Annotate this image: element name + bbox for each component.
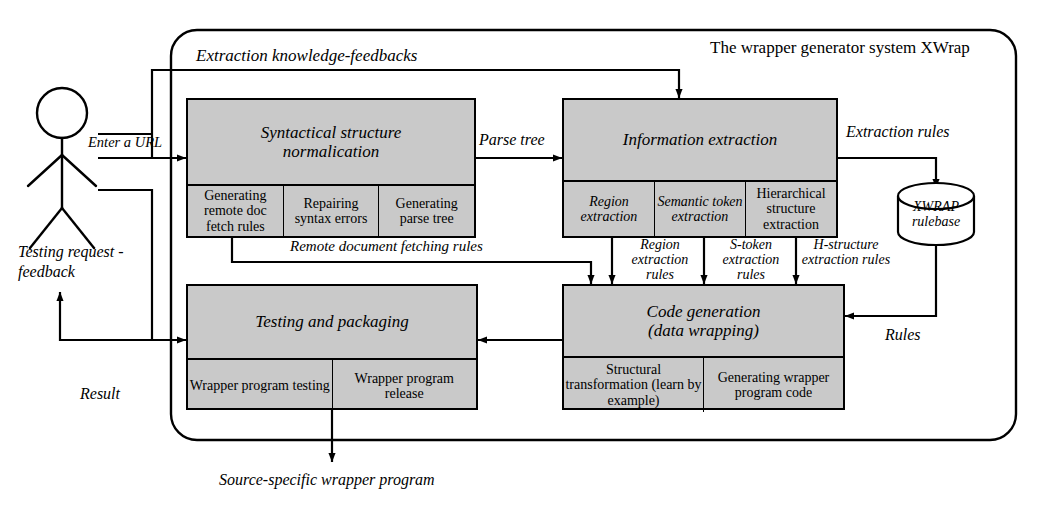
sub-generating-remote-doc-fetch-rules[interactable]: Generating remote doc fetch rules xyxy=(188,186,283,236)
label-enter-a-url: Enter a URL xyxy=(88,135,162,150)
sub-generating-parse-tree[interactable]: Generating parse tree xyxy=(378,186,474,236)
box-syntactical-subrow: Generating remote doc fetch rules Repair… xyxy=(188,184,474,236)
box-information-extraction[interactable]: Information extraction Region extraction… xyxy=(562,98,838,238)
box-code-generation[interactable]: Code generation (data wrapping) Structur… xyxy=(562,284,845,410)
label-result: Result xyxy=(80,386,120,403)
label-s-token-extraction-rules: S-token extraction rules xyxy=(710,238,792,282)
xwrap-rulebase-line1: XWRAP xyxy=(896,199,976,214)
xwrap-rulebase-label: XWRAP rulebase xyxy=(896,199,976,230)
box-syntactical-structure-normalization[interactable]: Syntactical structure normalication Gene… xyxy=(186,98,476,238)
connector-layer xyxy=(0,0,1055,507)
sub-structural-transformation[interactable]: Structural transformation (learn by exam… xyxy=(564,358,703,412)
box-testing-and-packaging[interactable]: Testing and packaging Wrapper program te… xyxy=(186,284,478,410)
sub-wrapper-program-testing[interactable]: Wrapper program testing xyxy=(188,360,332,412)
box-syntactical-title: Syntactical structure normalication xyxy=(188,100,474,184)
xwrap-rulebase-line2: rulebase xyxy=(896,214,976,229)
label-region-extraction-rules: Region extraction rules xyxy=(618,238,702,282)
sub-repairing-syntax-errors[interactable]: Repairing syntax errors xyxy=(283,186,379,236)
arrow-result xyxy=(60,292,186,340)
sub-generating-wrapper-program-code[interactable]: Generating wrapper program code xyxy=(703,358,843,412)
box-codegen-title-line2: (data wrapping) xyxy=(647,321,761,340)
sub-region-extraction[interactable]: Region extraction xyxy=(564,182,654,236)
label-rules: Rules xyxy=(885,327,921,344)
box-information-subrow: Region extraction Semantic token extract… xyxy=(564,180,836,236)
box-testing-title-line1: Testing and packaging xyxy=(255,312,408,331)
label-remote-document-fetching-rules: Remote document fetching rules xyxy=(290,239,483,255)
box-information-title-line1: Information extraction xyxy=(623,130,777,149)
box-codegen-title: Code generation (data wrapping) xyxy=(564,286,843,356)
box-codegen-subrow: Structural transformation (learn by exam… xyxy=(564,356,843,412)
sub-wrapper-program-release[interactable]: Wrapper program release xyxy=(332,360,477,412)
user-stick-figure xyxy=(28,88,96,248)
label-parse-tree: Parse tree xyxy=(479,132,545,149)
box-information-title: Information extraction xyxy=(564,100,836,180)
box-testing-subrow: Wrapper program testing Wrapper program … xyxy=(188,358,476,412)
label-h-structure-extraction-rules: H-structure extraction rules xyxy=(800,238,892,268)
diagram-canvas: Syntactical structure normalication Gene… xyxy=(0,0,1055,507)
label-source-specific-wrapper-program: Source-specific wrapper program xyxy=(219,472,435,489)
box-testing-title: Testing and packaging xyxy=(188,286,476,358)
box-syntactical-title-line2: normalication xyxy=(261,142,402,161)
label-extraction-knowledge-feedbacks: Extraction knowledge-feedbacks xyxy=(196,47,417,65)
sub-semantic-token-extraction[interactable]: Semantic token extraction xyxy=(654,182,745,236)
box-codegen-title-line1: Code generation xyxy=(647,302,761,321)
system-boundary-title: The wrapper generator system XWrap xyxy=(710,38,970,58)
label-extraction-rules: Extraction rules xyxy=(846,124,950,141)
label-testing-request-feedback: Testing request - feedback xyxy=(18,242,148,282)
sub-hierarchical-structure-extraction[interactable]: Hierarchical structure extraction xyxy=(745,182,836,236)
box-syntactical-title-line1: Syntactical structure xyxy=(261,123,402,142)
